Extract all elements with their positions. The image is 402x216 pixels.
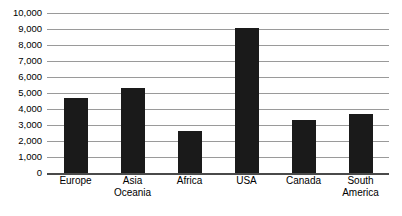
y-axis-tick-label: 2,000 — [0, 136, 42, 146]
x-axis-tick-label: South America — [332, 175, 389, 199]
bar — [178, 131, 202, 173]
bar — [349, 114, 373, 173]
y-axis-tick-label: 9,000 — [0, 24, 42, 34]
y-axis-tick-label: 0 — [0, 168, 42, 178]
y-axis-tick-label: 10,000 — [0, 8, 42, 18]
bar — [64, 98, 88, 173]
x-axis-tick-label: USA — [218, 175, 275, 187]
y-axis-tick-label: 5,000 — [0, 88, 42, 98]
bar — [235, 28, 259, 173]
bar — [292, 120, 316, 173]
x-axis-tick-label: Africa — [161, 175, 218, 187]
y-axis-tick-label: 4,000 — [0, 104, 42, 114]
y-axis-tick-label: 7,000 — [0, 56, 42, 66]
bar-chart: 01,0002,0003,0004,0005,0006,0007,0008,00… — [0, 0, 402, 216]
y-axis-tick-label: 8,000 — [0, 40, 42, 50]
y-axis-tick-label: 1,000 — [0, 152, 42, 162]
y-axis-tick-label: 3,000 — [0, 120, 42, 130]
x-axis-tick-label: Canada — [275, 175, 332, 187]
x-axis-tick-label: Europe — [47, 175, 104, 187]
y-axis-tick-label: 6,000 — [0, 72, 42, 82]
bar — [121, 88, 145, 173]
x-axis-tick-label: Asia Oceania — [104, 175, 161, 199]
y-axis: 01,0002,0003,0004,0005,0006,0007,0008,00… — [0, 13, 42, 173]
bars-group — [47, 13, 389, 173]
x-axis-labels: EuropeAsia OceaniaAfricaUSACanadaSouth A… — [47, 175, 389, 215]
